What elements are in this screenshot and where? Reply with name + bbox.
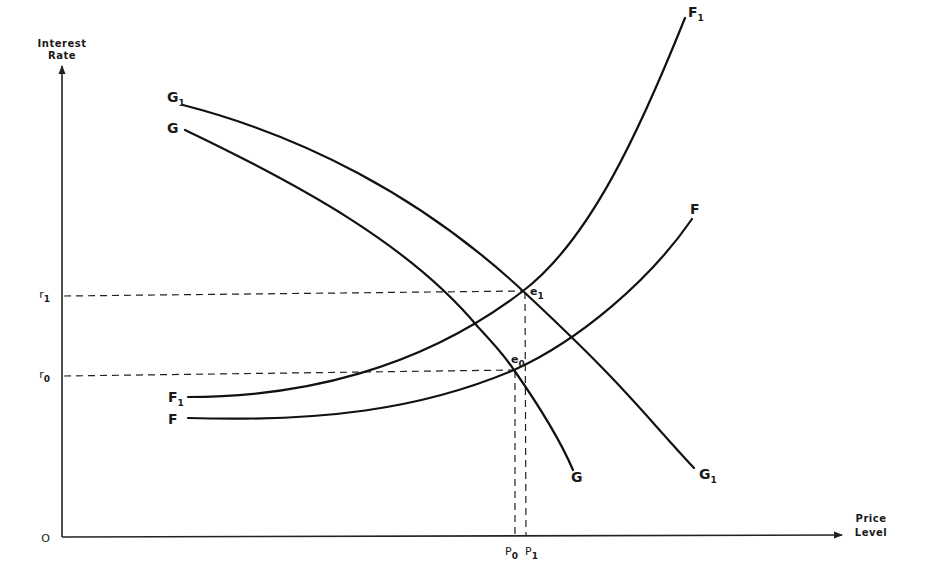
curve-f1 <box>188 18 685 397</box>
r1-guide <box>64 291 523 296</box>
g-label-end: G <box>571 469 583 485</box>
curve-labels: G1 G F1 F F1 F G G1 <box>167 4 717 485</box>
origin-label: O <box>41 532 50 545</box>
g-label-start: G <box>167 120 179 136</box>
tick-labels: r1 r0 P0 P1 <box>39 288 538 561</box>
f-label-end: F <box>690 201 700 217</box>
curves <box>183 18 694 470</box>
p1-label: P1 <box>525 545 538 561</box>
f1-label-end: F1 <box>688 4 704 23</box>
r0-guide <box>64 370 514 376</box>
curve-f <box>188 219 692 419</box>
x-axis-title-line1: Price <box>856 513 887 524</box>
f-label-start: F <box>168 411 178 427</box>
r0-label: r0 <box>39 368 50 384</box>
guide-lines <box>64 291 526 536</box>
x-axis-title-line2: Level <box>855 527 887 538</box>
interest-rate-price-level-diagram: Interest Rate Price Level O r1 r0 P0 P1 … <box>0 0 935 586</box>
f1-label-start: F1 <box>168 389 184 408</box>
p1-guide <box>525 292 526 536</box>
y-axis-title-line2: Rate <box>48 50 76 61</box>
g1-label-start: G1 <box>167 89 185 108</box>
y-axis-title-line1: Interest <box>38 38 87 49</box>
e0-label: e0 <box>511 353 525 369</box>
g1-label-end: G1 <box>699 466 717 485</box>
x-axis <box>62 535 842 537</box>
p0-label: P0 <box>505 545 518 561</box>
r1-label: r1 <box>39 288 50 304</box>
